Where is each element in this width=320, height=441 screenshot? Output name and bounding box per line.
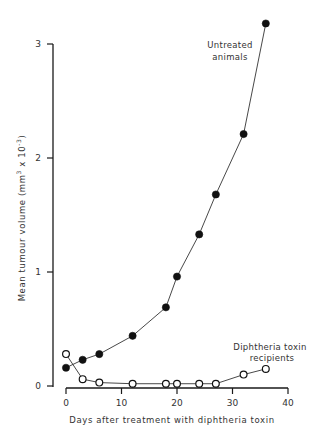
annotation-untreated: Untreated animals	[207, 40, 252, 62]
x-tick-label: 20	[171, 398, 183, 408]
y-tick-label: 3	[35, 39, 41, 49]
filled-circle-marker	[62, 364, 69, 371]
filled-circle-marker	[129, 332, 136, 339]
y-axis: 3 2 1 0	[35, 39, 53, 391]
y-tick-label: 1	[35, 267, 41, 277]
annotation-untreated-line2: animals	[212, 52, 248, 62]
x-tick-label: 0	[63, 398, 69, 408]
filled-circle-marker	[79, 356, 86, 363]
line-chart: 3 2 1 0 Mean tumour volume (mm3 x 10-3) …	[0, 0, 320, 441]
y-tick-label: 2	[35, 153, 41, 163]
y-axis-title: Mean tumour volume (mm3 x 10-3)	[15, 135, 27, 302]
annotation-diphtheria: Diphtheria toxin recipients	[233, 342, 306, 363]
x-tick-label: 10	[116, 398, 128, 408]
open-circle-marker	[174, 380, 181, 387]
open-circle-marker	[63, 351, 70, 358]
filled-circle-marker	[212, 191, 219, 198]
filled-circle-marker	[173, 273, 180, 280]
x-axis-title: Days after treatment with diphtheria tox…	[69, 415, 274, 425]
open-circle-marker	[96, 379, 103, 386]
annotation-diphtheria-line2: recipients	[250, 353, 295, 363]
y-tick-label: 0	[35, 381, 41, 391]
series-untreated-animals	[62, 20, 269, 371]
open-circle-marker	[240, 371, 247, 378]
open-circle-marker	[79, 376, 86, 383]
open-circle-marker	[262, 366, 269, 373]
open-circle-marker	[196, 380, 203, 387]
filled-circle-marker	[240, 130, 247, 137]
series-line	[66, 354, 266, 384]
open-circle-marker	[212, 380, 219, 387]
open-circle-marker	[163, 380, 170, 387]
series-line	[66, 23, 266, 367]
annotation-untreated-line1: Untreated	[207, 40, 252, 50]
filled-circle-marker	[162, 304, 169, 311]
annotation-diphtheria-line1: Diphtheria toxin	[233, 342, 306, 352]
x-tick-label: 40	[282, 398, 294, 408]
x-axis: 0 10 20 30 40	[63, 388, 294, 408]
filled-circle-marker	[262, 20, 269, 27]
x-tick-label: 30	[227, 398, 239, 408]
open-circle-marker	[129, 380, 136, 387]
filled-circle-marker	[96, 350, 103, 357]
filled-circle-marker	[196, 231, 203, 238]
